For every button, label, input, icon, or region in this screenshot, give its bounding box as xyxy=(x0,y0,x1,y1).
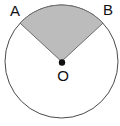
diagram-canvas: A B O xyxy=(0,0,120,126)
center-point-marker xyxy=(59,59,65,65)
label-point-o: O xyxy=(57,67,69,84)
label-point-b: B xyxy=(103,1,113,18)
geometry-diagram: A B O xyxy=(0,0,120,126)
label-point-a: A xyxy=(10,2,20,19)
